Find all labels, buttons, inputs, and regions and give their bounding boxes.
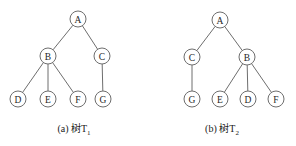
caption-tree-2-text: (b) 树T <box>205 123 235 134</box>
tree-node-label-A: A <box>75 15 82 25</box>
tree-edge-B-E <box>224 64 242 93</box>
tree-node-D: D <box>10 91 26 107</box>
tree-edge-B-F <box>252 64 272 93</box>
figure-root: ABCDEFG ACBGEDF (a) 树T1 (b) 树T2 <box>0 0 296 146</box>
tree-node-B: B <box>239 49 255 65</box>
tree-node-G: G <box>184 91 200 107</box>
caption-tree-1-text: (a) 树T <box>57 123 87 134</box>
caption-tree-1: (a) 树T1 <box>0 122 148 140</box>
tree-node-label-G: G <box>189 95 196 105</box>
tree-edge-C-G <box>102 64 103 91</box>
tree-node-label-A: A <box>217 16 224 26</box>
tree-node-label-E: E <box>45 95 51 105</box>
caption-tree-2-subscript: 2 <box>235 129 239 137</box>
tree-node-label-E: E <box>217 95 223 105</box>
tree-node-D: D <box>240 91 256 107</box>
tree-node-label-C: C <box>99 52 105 62</box>
tree-node-label-F: F <box>75 95 80 105</box>
tree-edge-A-B <box>53 25 73 50</box>
tree-node-F: F <box>268 91 284 107</box>
tree-node-label-B: B <box>45 52 51 62</box>
tree-node-A: A <box>212 12 228 28</box>
tree-node-E: E <box>212 91 228 107</box>
tree-edge-B-F <box>53 63 74 93</box>
tree-edge-B-D <box>23 63 44 93</box>
tree-diagram-t1: ABCDEFG <box>0 0 148 120</box>
tree-node-label-D: D <box>245 95 252 105</box>
caption-tree-1-subscript: 1 <box>87 129 91 137</box>
tree-node-label-C: C <box>189 53 195 63</box>
tree-node-C: C <box>94 48 110 64</box>
tree-node-label-B: B <box>244 53 250 63</box>
tree-node-A: A <box>70 11 86 27</box>
tree-edge-A-C <box>197 26 215 50</box>
tree-node-label-G: G <box>100 95 107 105</box>
tree-diagram-t2: ACBGEDF <box>148 0 296 120</box>
tree-edge-B-D <box>247 65 248 91</box>
tree-node-F: F <box>70 91 86 107</box>
tree-edge-A-B <box>225 26 243 50</box>
tree-node-B: B <box>40 48 56 64</box>
tree-node-C: C <box>184 49 200 65</box>
tree-node-label-F: F <box>273 95 278 105</box>
tree-node-label-D: D <box>15 95 22 105</box>
tree-node-G: G <box>95 91 111 107</box>
tree-node-E: E <box>40 91 56 107</box>
tree-edge-A-C <box>82 26 97 50</box>
caption-tree-2: (b) 树T2 <box>148 122 296 140</box>
